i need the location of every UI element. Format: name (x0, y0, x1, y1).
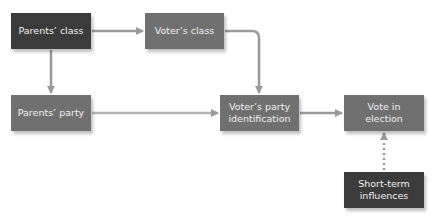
node-label: Voter’s party identification (224, 101, 295, 125)
node-label: Vote in election (359, 101, 409, 125)
node-voters-class: Voter’s class (145, 13, 224, 49)
node-label: Short-term influences (352, 178, 416, 202)
node-short-term-influences: Short-term influences (344, 172, 424, 208)
node-parents-party: Parents’ party (11, 95, 91, 131)
node-label: Parents’ party (18, 107, 85, 119)
node-voters-party-identification: Voter’s party identification (220, 95, 299, 131)
node-parents-class: Parents’ class (11, 13, 91, 49)
node-vote-in-election: Vote in election (344, 95, 424, 131)
arrow-voters-class-to-voters-party (225, 31, 259, 93)
node-label: Parents’ class (19, 25, 84, 37)
node-label: Voter’s class (155, 25, 215, 37)
